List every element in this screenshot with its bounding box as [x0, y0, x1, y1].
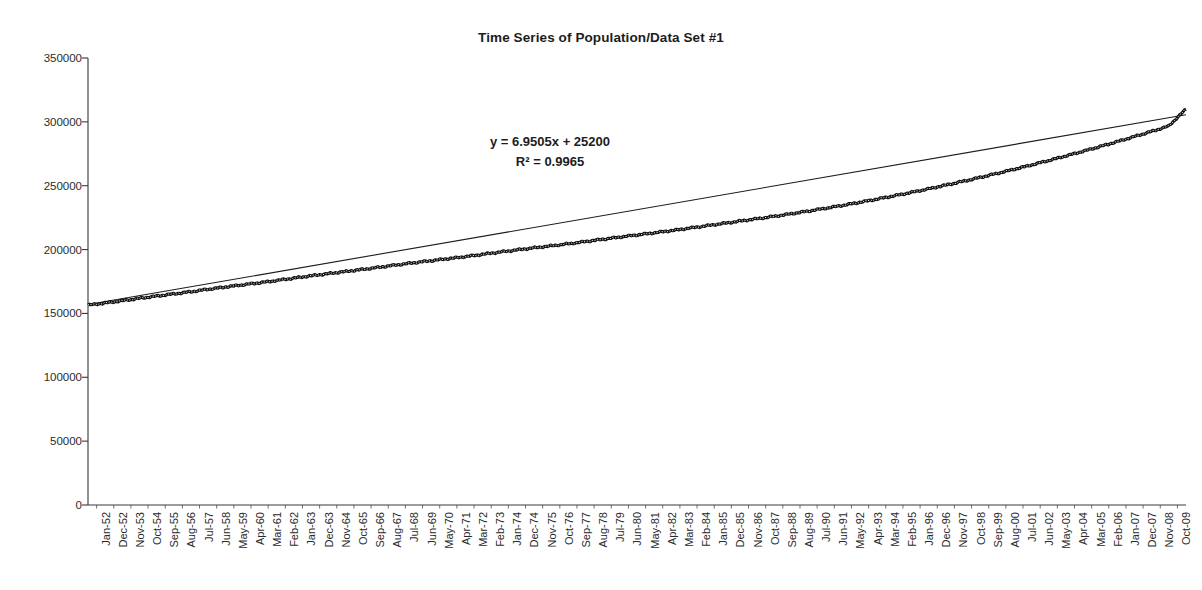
x-axis-tick-label: Aug-00 — [1010, 512, 1021, 547]
axis-lines — [88, 58, 1186, 505]
x-axis-tick-label: Dec-96 — [941, 512, 952, 547]
x-axis-tick-label: Feb-06 — [1113, 512, 1124, 547]
plot-area — [0, 0, 1202, 590]
x-axis-tick-label: Mar-83 — [684, 512, 695, 547]
x-axis-tick-label: Jan-07 — [1130, 512, 1141, 546]
x-axis-tick-label: Apr-60 — [255, 512, 266, 545]
x-axis-tick-label: Mar-05 — [1096, 512, 1107, 547]
x-axis-tick-label: Jul-68 — [409, 512, 420, 542]
x-axis-tick-label: Dec-07 — [1147, 512, 1158, 547]
x-axis-tick-label: Jan-96 — [924, 512, 935, 546]
x-axis-tick-label: Apr-93 — [873, 512, 884, 545]
x-axis-tick-label: Mar-94 — [890, 512, 901, 547]
x-axis-tick-label: May-59 — [238, 512, 249, 549]
x-axis-tick-label: Oct-98 — [976, 512, 987, 545]
x-axis-tick-label: Oct-76 — [564, 512, 575, 545]
x-axis-tick-labels: Jan-52Dec-52Nov-53Oct-54Sep-55Aug-56Jul-… — [0, 510, 1202, 590]
x-axis-tick-label: Jun-02 — [1044, 512, 1055, 546]
x-axis-tick-label: Apr-04 — [1078, 512, 1089, 545]
x-axis-tick-label: Nov-08 — [1164, 512, 1175, 547]
x-axis-tick-label: Feb-84 — [701, 512, 712, 547]
x-axis-tick-label: Aug-56 — [186, 512, 197, 547]
x-axis-tick-label: Sep-77 — [581, 512, 592, 547]
x-axis-tick-label: Dec-63 — [324, 512, 335, 547]
x-axis-tick-label: Aug-67 — [392, 512, 403, 547]
x-axis-tick-label: Nov-86 — [753, 512, 764, 547]
x-axis-tick-label: Jul-01 — [1027, 512, 1038, 542]
y-axis-ticks — [82, 58, 88, 505]
x-axis-tick-label: Mar-72 — [478, 512, 489, 547]
x-axis-tick-label: Sep-66 — [375, 512, 386, 547]
x-axis-tick-label: Sep-88 — [787, 512, 798, 547]
x-axis-tick-label: Oct-87 — [770, 512, 781, 545]
x-axis-tick-label: May-81 — [650, 512, 661, 549]
x-axis-tick-label: Aug-78 — [598, 512, 609, 547]
x-axis-tick-label: Nov-97 — [958, 512, 969, 547]
x-axis-tick-label: Dec-74 — [529, 512, 540, 547]
x-axis-tick-label: May-92 — [855, 512, 866, 549]
x-axis-tick-label: Jan-85 — [718, 512, 729, 546]
x-axis-tick-label: Nov-75 — [547, 512, 558, 547]
x-axis-tick-label: Jun-80 — [632, 512, 643, 546]
x-axis-tick-label: Dec-52 — [118, 512, 129, 547]
x-axis-tick-label: Apr-71 — [461, 512, 472, 545]
x-axis-tick-label: Jan-63 — [306, 512, 317, 546]
x-axis-tick-label: Jan-74 — [512, 512, 523, 546]
x-axis-tick-label: Jan-52 — [101, 512, 112, 546]
x-axis-tick-label: Jun-58 — [221, 512, 232, 546]
x-axis-tick-label: Aug-89 — [804, 512, 815, 547]
x-axis-tick-label: Feb-62 — [289, 512, 300, 547]
x-axis-tick-label: Mar-61 — [272, 512, 283, 547]
chart-container: Time Series of Population/Data Set #1 y … — [0, 0, 1202, 590]
x-axis-tick-label: Oct-65 — [358, 512, 369, 545]
x-axis-tick-label: Jun-91 — [838, 512, 849, 546]
x-axis-tick-label: Feb-95 — [907, 512, 918, 547]
x-axis-tick-label: Feb-73 — [495, 512, 506, 547]
x-axis-tick-label: Jul-79 — [615, 512, 626, 542]
x-axis-tick-label: Jul-57 — [204, 512, 215, 542]
x-axis-tick-label: Sep-99 — [993, 512, 1004, 547]
x-axis-tick-label: Oct-54 — [152, 512, 163, 545]
x-axis-tick-label: Oct-09 — [1181, 512, 1192, 545]
x-axis-tick-label: Jul-90 — [821, 512, 832, 542]
x-axis-tick-label: May-03 — [1061, 512, 1072, 549]
trendline — [88, 115, 1186, 305]
x-axis-tick-label: Nov-64 — [341, 512, 352, 547]
x-axis-tick-label: Apr-82 — [667, 512, 678, 545]
x-axis-tick-label: Nov-53 — [135, 512, 146, 547]
x-axis-tick-label: Dec-85 — [735, 512, 746, 547]
x-axis-tick-label: Sep-55 — [169, 512, 180, 547]
x-axis-tick-label: Jun-69 — [427, 512, 438, 546]
x-axis-tick-label: May-70 — [444, 512, 455, 549]
